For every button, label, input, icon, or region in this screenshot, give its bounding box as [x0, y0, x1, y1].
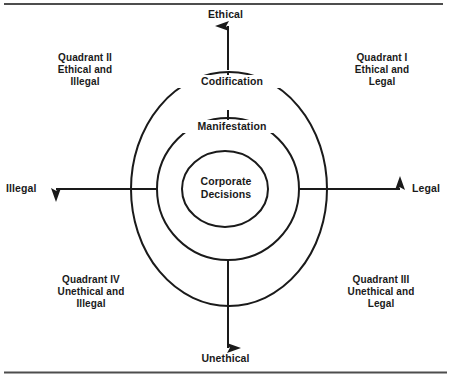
- axis-label-illegal: Illegal: [6, 182, 36, 195]
- axis-label-unethical: Unethical: [0, 352, 451, 365]
- axis-label-legal: Legal: [412, 182, 440, 195]
- quadrant-label-3: Quadrant III Unethical and Legal: [318, 274, 444, 311]
- quadrant-label-2: Quadrant II Ethical and Illegal: [22, 52, 148, 89]
- quadrant-label-1: Quadrant I Ethical and Legal: [320, 52, 444, 89]
- ring-label-codification: Codification: [160, 75, 304, 88]
- axis-label-ethical: Ethical: [0, 8, 451, 21]
- ring-label-manifestation: Manifestation: [158, 120, 306, 133]
- ethics-quadrant-diagram: Ethical Unethical Illegal Legal Quadrant…: [0, 0, 451, 379]
- quadrant-label-4: Quadrant IV Unethical and Illegal: [28, 274, 154, 311]
- center-label-corporate-decisions: Corporate Decisions: [182, 175, 270, 201]
